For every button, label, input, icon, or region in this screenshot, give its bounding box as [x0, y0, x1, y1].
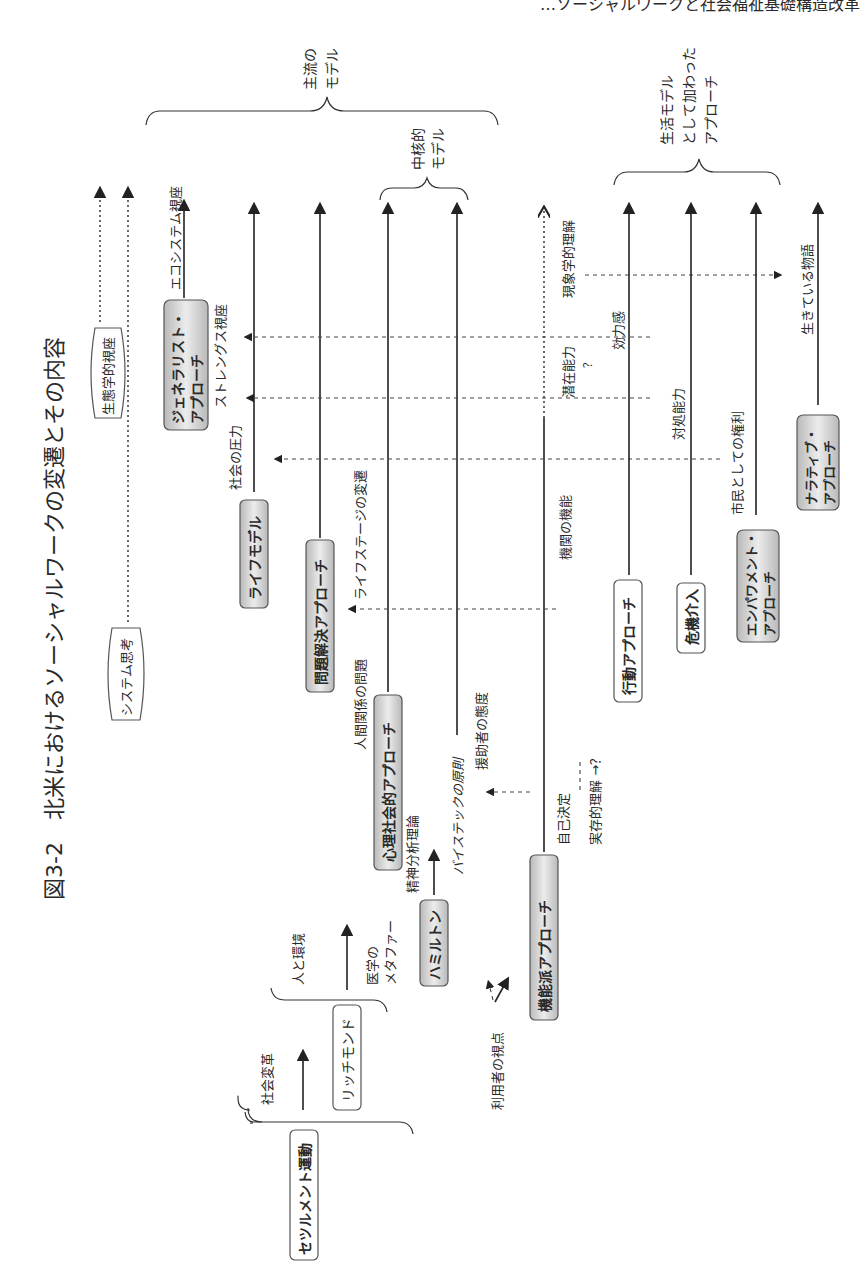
core-label-2: モデル [430, 128, 446, 170]
model-psychosocial[interactable]: 心理社会的アプローチ [374, 695, 402, 870]
label-phenomenological: 現象学的理解 [561, 220, 576, 298]
label-strengths: ストレングス視座 [213, 304, 228, 408]
svg-text:システム思考: システム思考 [119, 638, 134, 716]
brace-core [380, 178, 468, 200]
model-generalist[interactable]: ジェネラリスト・ アプローチ [164, 300, 208, 430]
label-interpersonal: 人間関係の問題 [353, 659, 368, 750]
svg-text:生態学的視座: 生態学的視座 [101, 337, 116, 415]
label-medical-metaphor-2: メタファー [383, 920, 398, 985]
figure-title: 図3-2 北米におけるソーシャルワークの変遷とその内容 [42, 337, 67, 900]
label-ecosystem: エコシステム視座 [168, 186, 183, 290]
label-user-perspective: 利用者の視点 [490, 1032, 505, 1110]
svg-text:行動アプローチ: 行動アプローチ [621, 597, 637, 696]
model-empowerment-line2: アプローチ [762, 571, 777, 636]
svg-text:エンパワメント・: エンパワメント・ [744, 532, 759, 636]
svg-text:ハミルトン: ハミルトン [427, 910, 443, 980]
model-problem-solving[interactable]: 問題解決アプローチ [306, 540, 334, 692]
core-label-1: 中核的 [410, 128, 426, 170]
model-life[interactable]: ライフモデル [240, 500, 268, 608]
svg-text:セツルメント運動: セツルメント運動 [297, 1143, 313, 1255]
life-label-1: 生活モデル [659, 75, 675, 145]
svg-text:ライフモデル: ライフモデル [247, 516, 263, 600]
label-citizen-rights: 市民としての権利 [730, 411, 745, 515]
model-functional[interactable]: 機能派アプローチ [530, 855, 558, 1020]
label-latent-ability: 潜在能力 [561, 346, 576, 398]
label-social-reform: 社会変革 [260, 1053, 275, 1105]
model-narrative-line2: アプローチ [822, 440, 837, 505]
life-label-2: として加わった [681, 47, 697, 145]
svg-text:ジェネラリスト・: ジェネラリスト・ [170, 312, 186, 424]
running-head: …ソーシャルワークと社会福祉基礎構造改革 [540, 0, 860, 14]
label-coping: 対処能力 [671, 388, 686, 440]
label-biestek: バイステックの原則 [451, 756, 466, 875]
label-life-stage: ライフステージの変遷 [353, 470, 368, 600]
svg-text:心理社会的アプローチ: 心理社会的アプローチ [381, 722, 397, 862]
mainstream-label-1: 主流の [302, 48, 318, 90]
mainstream-label-2: モデル [324, 48, 340, 90]
svg-text:危機介入: 危機介入 [684, 589, 700, 646]
model-behavioral[interactable]: 行動アプローチ [614, 580, 642, 702]
brace-settlement [245, 1112, 413, 1134]
svg-text:ナラティブ・: ナラティブ・ [804, 428, 819, 505]
label-existential: 実存的理解 →？ [588, 752, 603, 845]
label-person-environment: 人と環境 [291, 933, 306, 985]
svg-text:アプローチ: アプローチ [189, 354, 205, 424]
life-label-3: アプローチ [703, 75, 719, 145]
banner-ecological: 生態学的視座 [91, 328, 125, 418]
svg-text:問題解決アプローチ: 問題解決アプローチ [313, 559, 329, 685]
label-medical-metaphor-1: 医学の [365, 946, 380, 985]
label-agency-function: 機関の機能 [558, 495, 573, 560]
model-hamilton[interactable]: ハミルトン [420, 900, 448, 986]
svg-text:機能派アプローチ: 機能派アプローチ [537, 900, 553, 1012]
label-living-story: 生きている物語 [800, 244, 815, 335]
model-richmond[interactable]: リッチモンド [333, 1005, 361, 1110]
model-crisis[interactable]: 危機介入 [677, 583, 705, 653]
user-perspective-arrow [495, 982, 506, 1002]
brace-mainstream [146, 97, 498, 125]
label-question: ？ [582, 357, 595, 368]
label-psychoanalysis: 精神分析理論 [405, 815, 420, 893]
label-efficacy: 効力感 [611, 311, 626, 350]
label-helper-attitude: 援助者の態度 [474, 692, 489, 770]
diagram-canvas: …ソーシャルワークと社会福祉基礎構造改革 図3-2 北米におけるソーシャルワーク… [0, 0, 868, 1276]
label-self-determination: 自己決定 [556, 793, 571, 845]
label-social-pressure: 社会の圧力 [228, 425, 243, 490]
brace-life-model [614, 159, 780, 185]
svg-text:リッチモンド: リッチモンド [340, 1018, 356, 1102]
model-settlement[interactable]: セツルメント運動 [290, 1130, 318, 1260]
banner-systems: システム思考 [108, 628, 144, 720]
